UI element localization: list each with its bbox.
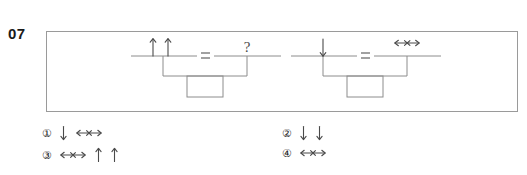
equals-sign	[361, 53, 370, 58]
bracket-diagram-right	[285, 32, 470, 113]
down-arrow-icon	[315, 125, 324, 141]
option-marker-4: ④	[282, 148, 292, 159]
equals-sign	[201, 53, 210, 58]
option-glyphs-4	[299, 147, 327, 159]
question-mark-symbol: ?	[244, 39, 251, 55]
option-glyphs-3	[59, 147, 119, 163]
horizontal-double-arrow-icon	[299, 147, 327, 159]
up-arrow-icon	[94, 147, 103, 163]
answer-option-1[interactable]: ①	[42, 125, 103, 141]
option-glyphs-2	[299, 125, 324, 141]
result-box	[347, 76, 383, 97]
answer-option-4[interactable]: ④	[282, 147, 327, 159]
horizontal-double-arrow-icon	[75, 127, 103, 139]
up-arrow-icon	[110, 147, 119, 163]
option-marker-3: ③	[42, 150, 52, 161]
result-box	[187, 76, 223, 97]
question-number: 07	[8, 26, 26, 41]
option-marker-2: ②	[282, 128, 292, 139]
down-arrow-icon	[59, 125, 68, 141]
option-glyphs-1	[59, 125, 103, 141]
symbol-down-arrow-1	[320, 39, 326, 56]
bracket-diagram-left: ?	[125, 32, 310, 113]
stimulus-panel-right	[285, 32, 470, 113]
answer-option-2[interactable]: ②	[282, 125, 324, 141]
stimulus-panel-left: ?	[125, 32, 310, 113]
answer-option-3[interactable]: ③	[42, 147, 119, 163]
stimulus-frame: ?	[46, 31, 518, 112]
symbol-up-arrow-2	[165, 39, 171, 56]
horizontal-double-arrow-icon	[59, 149, 87, 161]
symbol-up-arrow-1	[150, 39, 156, 56]
symbol-horizontal-double-arrow-1	[395, 40, 419, 45]
down-arrow-icon	[299, 125, 308, 141]
option-marker-1: ①	[42, 128, 52, 139]
